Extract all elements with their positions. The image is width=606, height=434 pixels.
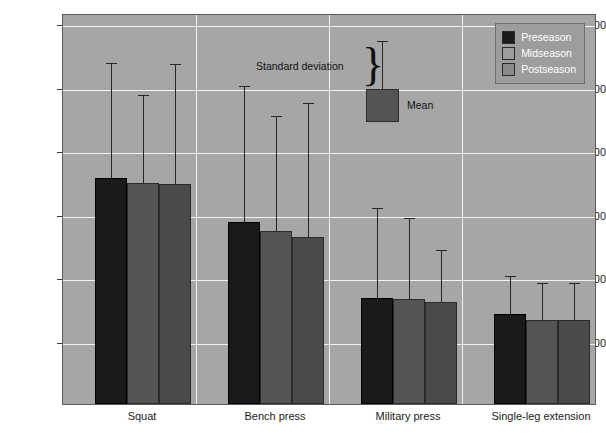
legend-item-preseason[interactable]: Preseason xyxy=(502,30,576,45)
bar-squat-preseason[interactable] xyxy=(95,178,127,404)
bar-single-leg-extension-midseason[interactable] xyxy=(526,320,558,404)
errorbar-single-leg-extension-preseason xyxy=(510,277,511,314)
errorbar-military-press-postseason xyxy=(441,251,442,302)
bar-bench-press-preseason[interactable] xyxy=(228,222,260,404)
errorbar-squat-midseason xyxy=(143,96,144,183)
annotation-mean-label: Mean xyxy=(407,99,433,111)
errorcap-single-leg-extension-midseason xyxy=(537,283,548,284)
errorcap-squat-midseason xyxy=(138,95,149,96)
errorcap-military-press-midseason xyxy=(404,218,415,219)
gridline-vertical xyxy=(196,15,197,404)
errorcap-bench-press-postseason xyxy=(303,103,314,104)
legend-swatch-preseason-icon xyxy=(502,31,515,44)
errorcap-military-press-preseason xyxy=(372,208,383,209)
errorbar-single-leg-extension-postseason xyxy=(574,284,575,320)
x-tick-label-single-leg-extension: Single-leg extension xyxy=(491,410,590,422)
x-tick-label-squat: Squat xyxy=(128,410,157,422)
bar-military-press-preseason[interactable] xyxy=(361,298,393,404)
errorcap-single-leg-extension-preseason xyxy=(505,276,516,277)
annotation-standard-deviation-label: Standard deviation xyxy=(256,60,344,72)
annotation-curly-brace: } xyxy=(362,47,384,84)
bar-single-leg-extension-postseason[interactable] xyxy=(558,320,590,404)
figure-container: Weight lifted for one repetition (lb) 60… xyxy=(0,0,606,434)
errorcap-military-press-postseason xyxy=(436,250,447,251)
x-tick-label-military-press: Military press xyxy=(376,410,441,422)
errorcap-bench-press-midseason xyxy=(271,116,282,117)
errorcap-squat-postseason xyxy=(170,64,181,65)
legend-item-midseason[interactable]: Midseason xyxy=(502,46,576,61)
bar-squat-midseason[interactable] xyxy=(127,183,159,404)
errorbar-bench-press-midseason xyxy=(276,117,277,231)
errorbar-squat-preseason xyxy=(111,64,112,178)
errorbar-squat-postseason xyxy=(175,65,176,184)
legend-label-preseason: Preseason xyxy=(521,32,571,43)
bar-military-press-postseason[interactable] xyxy=(425,302,457,404)
errorcap-bench-press-preseason xyxy=(239,86,250,87)
annotation-errorcap-sample xyxy=(377,41,388,42)
legend-item-postseason[interactable]: Postseason xyxy=(502,62,576,77)
annotation-mean-box-sample xyxy=(366,89,399,122)
legend-label-postseason: Postseason xyxy=(521,64,576,75)
x-tick-label-bench-press: Bench press xyxy=(244,410,305,422)
gridline-vertical xyxy=(329,15,330,404)
bar-bench-press-postseason[interactable] xyxy=(292,237,324,404)
gridline-vertical xyxy=(462,15,463,404)
errorbar-bench-press-preseason xyxy=(244,87,245,222)
errorcap-single-leg-extension-postseason xyxy=(569,283,580,284)
plot-area: Standard deviation } Mean Preseason Mids… xyxy=(62,14,596,405)
bar-squat-postseason[interactable] xyxy=(159,184,191,404)
bar-military-press-midseason[interactable] xyxy=(393,299,425,404)
errorbar-bench-press-postseason xyxy=(308,104,309,237)
errorcap-squat-preseason xyxy=(106,63,117,64)
legend-swatch-midseason-icon xyxy=(502,47,515,60)
bar-bench-press-midseason[interactable] xyxy=(260,231,292,404)
errorbar-single-leg-extension-midseason xyxy=(542,284,543,320)
legend-label-midseason: Midseason xyxy=(521,48,572,59)
legend: Preseason Midseason Postseason xyxy=(495,23,585,84)
errorbar-military-press-midseason xyxy=(409,219,410,299)
errorbar-military-press-preseason xyxy=(377,209,378,298)
bar-single-leg-extension-preseason[interactable] xyxy=(494,314,526,404)
legend-swatch-postseason-icon xyxy=(502,63,515,76)
